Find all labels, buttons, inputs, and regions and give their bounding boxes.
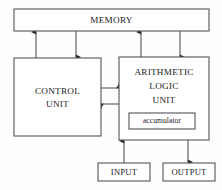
alu-label-line2: LOGIC [149, 81, 178, 91]
block-alu: ARITHMETIC LOGIC UNIT accumulator [119, 57, 209, 140]
control-unit-label-line1: CONTROL [35, 86, 80, 96]
architecture-diagram: MEMORY CONTROL UNIT ARITHMETIC LOGIC UNI… [0, 0, 222, 190]
alu-label-line3: UNIT [153, 95, 176, 105]
block-output: OUTPUT [163, 163, 215, 181]
input-label: INPUT [111, 167, 138, 177]
block-control-unit: CONTROL UNIT [14, 58, 101, 136]
output-label: OUTPUT [171, 167, 207, 177]
control-unit-box [14, 58, 101, 136]
block-accumulator: accumulator [129, 113, 195, 129]
block-input: INPUT [98, 163, 150, 181]
control-unit-label-line2: UNIT [46, 99, 69, 109]
alu-label-line1: ARITHMETIC [134, 67, 193, 77]
diagram-canvas: MEMORY CONTROL UNIT ARITHMETIC LOGIC UNI… [0, 0, 222, 190]
memory-label: MEMORY [90, 15, 132, 25]
accumulator-label: accumulator [143, 116, 181, 125]
block-memory: MEMORY [14, 9, 209, 31]
